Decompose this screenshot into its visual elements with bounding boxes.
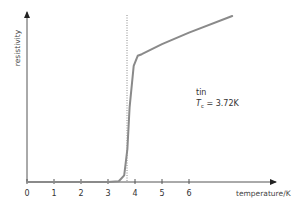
x-tick-label: 0 [24,189,29,198]
x-tick-label: 5 [159,189,164,198]
tc-label: Tc = 3.72K [196,99,240,109]
resistivity-curve [27,16,232,182]
y-axis-label: resistivity [13,29,22,66]
x-tick-label: 6 [186,189,191,198]
tc-value: = 3.72K [204,99,240,108]
x-axis-label: temperature/K [236,189,292,198]
chart-canvas: 0123456 resistivity temperature/K tin Tc… [0,0,302,214]
x-tick-label: 1 [51,189,56,198]
x-tick-label: 4 [132,189,137,198]
x-tick-label: 3 [105,189,110,198]
material-label: tin [196,88,206,97]
x-tick-label: 2 [78,189,83,198]
